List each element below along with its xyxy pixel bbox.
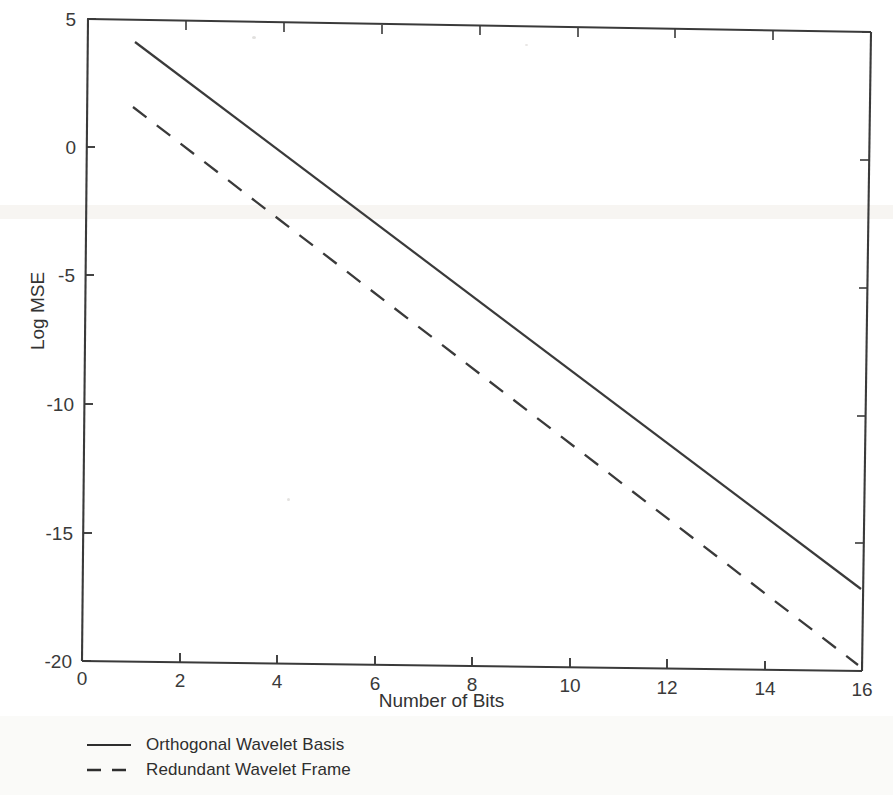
y-axis-ticks-right [855, 32, 871, 543]
plot-area [82, 19, 862, 661]
x-tick-label-4: 4 [257, 672, 297, 691]
legend-row-redundant-wavelet-frame: Redundant Wavelet Frame [86, 759, 351, 781]
y-tick-label-neg15: -15 [18, 524, 73, 543]
y-axis-title: Log MSE [27, 261, 49, 361]
axes-frame [82, 19, 871, 671]
plot-svg [0, 0, 893, 720]
y-tick-label-5: 5 [18, 10, 76, 29]
legend-row-orthogonal-wavelet-basis: Orthogonal Wavelet Basis [86, 734, 351, 756]
x-axis-title: Number of Bits [0, 690, 893, 712]
figure-canvas: 5 0 -5 -10 -15 -20 0 2 4 6 8 10 12 14 16… [0, 0, 893, 795]
y-tick-label-0: 0 [18, 138, 76, 157]
series-line-redundant-wavelet-frame [133, 107, 858, 665]
y-tick-label-neg10: -10 [18, 395, 74, 414]
x-tick-label-0: 0 [62, 669, 102, 688]
legend-swatch-solid-line-icon [86, 738, 132, 752]
x-axis-ticks-top [186, 21, 773, 40]
series-line-orthogonal-wavelet-basis [135, 42, 861, 589]
legend-label-orthogonal-wavelet-basis: Orthogonal Wavelet Basis [146, 735, 344, 755]
legend: Orthogonal Wavelet Basis Redundant Wavel… [86, 734, 351, 784]
x-tick-label-2: 2 [160, 671, 200, 690]
legend-label-redundant-wavelet-frame: Redundant Wavelet Frame [146, 760, 351, 780]
legend-swatch-dashed-line-icon [86, 763, 132, 777]
x-axis-title-text: Number of Bits [379, 690, 505, 712]
